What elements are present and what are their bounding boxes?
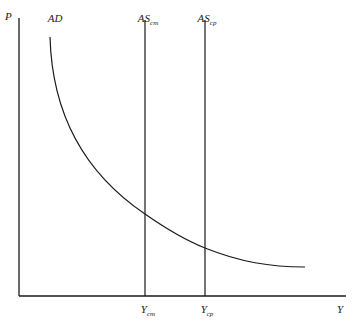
x-axis-label-text: Y	[337, 303, 343, 315]
y-cm-subscript: cm	[147, 310, 155, 318]
y-axis-label: P	[5, 11, 12, 22]
y-axis-label-text: P	[5, 10, 12, 22]
as-cp-subscript: cp	[210, 19, 217, 27]
y-cm-tick-label: Ycm	[141, 304, 155, 318]
x-axis-label: Y	[337, 304, 343, 315]
as-cm-label: AScm	[138, 13, 158, 27]
ad-as-diagram	[0, 0, 356, 336]
as-cp-label: AScp	[198, 13, 217, 27]
ad-label: AD	[48, 13, 63, 24]
y-cp-tick-label: Ycp	[201, 304, 214, 318]
as-cm-label-text: AS	[138, 12, 150, 24]
as-cp-label-text: AS	[198, 12, 210, 24]
ad-curve	[50, 37, 305, 267]
as-cm-subscript: cm	[150, 19, 158, 27]
y-cp-subscript: cp	[207, 310, 214, 318]
ad-label-text: AD	[48, 12, 63, 24]
